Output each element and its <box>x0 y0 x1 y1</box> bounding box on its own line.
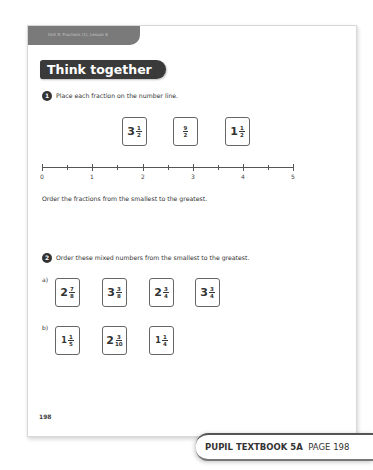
section-title: Think together <box>40 60 166 79</box>
fraction-card: 2 3 10 <box>102 326 127 355</box>
footer-tab: PUPIL TEXTBOOK 5A PAGE 198 <box>196 433 373 461</box>
whole-part: 2 <box>60 286 68 299</box>
number-line-label: 5 <box>291 173 295 180</box>
question-2-prompt: Order these mixed numbers from the small… <box>56 254 249 261</box>
fraction: 1 4 <box>162 334 168 347</box>
fraction: 3 4 <box>163 286 169 299</box>
whole-part: 3 <box>107 286 115 299</box>
whole-part: 1 <box>155 336 161 345</box>
numerator: 1 <box>239 125 245 132</box>
whole-part: 1 <box>61 336 67 345</box>
number-line: 0 1 2 3 4 5 <box>42 167 294 168</box>
numerator: 3 <box>116 334 122 341</box>
numerator: 3 <box>163 286 169 293</box>
denominator: 2 <box>137 132 141 138</box>
denominator: 8 <box>117 293 121 299</box>
fraction-card: 3 3 4 <box>195 278 220 307</box>
fraction: 1 5 <box>68 334 74 347</box>
tick <box>67 165 68 170</box>
part-b-label: b) <box>42 324 48 331</box>
question-2-badge: 2 <box>42 253 52 263</box>
unit-label: Unit 5: Fractions (1), Lesson 8 <box>48 32 108 37</box>
unit-tab: Unit 5: Fractions (1), Lesson 8 <box>28 26 140 45</box>
tick <box>243 164 244 171</box>
number-line-label: 4 <box>241 173 245 180</box>
fraction-card: 1 1 2 <box>225 117 250 146</box>
numerator: 9 <box>183 125 189 132</box>
denominator: 4 <box>163 341 167 347</box>
fraction: 3 10 <box>115 334 123 347</box>
footer-book: PUPIL TEXTBOOK 5A <box>205 442 303 452</box>
denominator: 10 <box>115 341 123 347</box>
fraction-card: 1 1 5 <box>55 326 80 355</box>
fraction: 1 2 <box>239 125 245 138</box>
tick <box>143 164 144 171</box>
fraction: 3 4 <box>209 286 215 299</box>
numerator: 1 <box>136 125 142 132</box>
fraction-card: 9 2 <box>173 117 198 146</box>
number-line-label: 3 <box>191 173 195 180</box>
fraction: 1 2 <box>136 125 142 138</box>
numerator: 7 <box>69 286 75 293</box>
denominator: 5 <box>69 341 73 347</box>
tick <box>92 164 93 171</box>
fraction-card: 1 1 4 <box>149 326 174 355</box>
tick <box>193 164 194 171</box>
tick <box>117 165 118 170</box>
number-line-label: 1 <box>90 173 94 180</box>
fraction: 9 2 <box>183 125 189 138</box>
fraction-card: 3 3 8 <box>102 278 127 307</box>
part-a-label: a) <box>42 276 48 283</box>
number-line-label: 2 <box>141 173 145 180</box>
fraction-card: 3 1 2 <box>122 117 147 146</box>
question-1-instruction: Order the fractions from the smallest to… <box>42 195 207 202</box>
tick <box>42 164 43 171</box>
question-1-badge: 1 <box>42 91 52 101</box>
footer-page: PAGE 198 <box>308 442 349 452</box>
question-1-prompt: Place each fraction on the number line. <box>56 92 178 99</box>
whole-part: 1 <box>230 125 238 138</box>
denominator: 2 <box>240 132 244 138</box>
whole-part: 2 <box>154 286 162 299</box>
footer-text: PUPIL TEXTBOOK 5A PAGE 198 <box>205 442 349 452</box>
tick <box>268 165 269 170</box>
denominator: 8 <box>70 293 74 299</box>
denominator: 2 <box>184 132 188 138</box>
whole-part: 2 <box>106 334 114 347</box>
whole-part: 3 <box>127 125 135 138</box>
denominator: 4 <box>210 293 214 299</box>
numerator: 3 <box>116 286 122 293</box>
number-line-label: 0 <box>40 173 44 180</box>
numerator: 1 <box>162 334 168 341</box>
numerator: 3 <box>209 286 215 293</box>
fraction-card: 2 7 8 <box>55 278 80 307</box>
whole-part: 3 <box>200 286 208 299</box>
fraction: 3 8 <box>116 286 122 299</box>
fraction: 7 8 <box>69 286 75 299</box>
tick <box>218 165 219 170</box>
tick <box>168 165 169 170</box>
fraction-card: 2 3 4 <box>149 278 174 307</box>
textbook-page: Unit 5: Fractions (1), Lesson 8 Think to… <box>27 25 357 437</box>
numerator: 1 <box>68 334 74 341</box>
denominator: 4 <box>164 293 168 299</box>
tick <box>293 164 294 171</box>
page-number: 198 <box>39 413 52 420</box>
